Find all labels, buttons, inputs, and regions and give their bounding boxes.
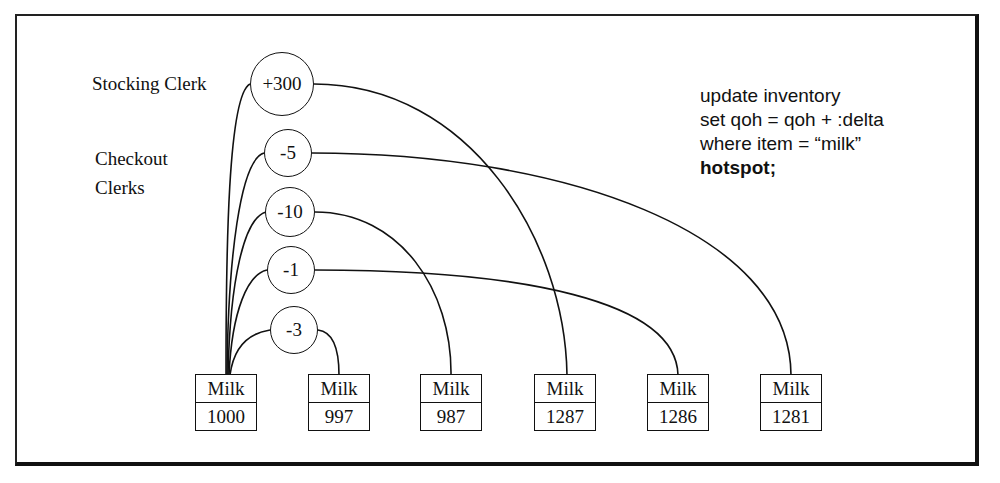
connector-minus3-to-997 [318,330,339,375]
connector-1000-to-minus3 [230,330,270,375]
stocking-clerk-label: Stocking Clerk [92,70,207,98]
checkout-clerks-label-line2: Clerks [95,174,145,202]
connector-minus10-to-987 [315,212,451,375]
sql-line-where: where item = “milk” [700,132,884,156]
record-qoh: 1287 [535,403,595,430]
delta-node-minus5: -5 [264,129,312,177]
record-item: Milk [535,375,595,403]
delta-node-minus1: -1 [267,246,315,294]
record-item: Milk [421,375,481,403]
record-qoh: 1000 [196,403,256,430]
record-box-987: Milk 987 [420,374,482,431]
record-box-1286: Milk 1286 [647,374,709,431]
connector-minus5-to-1281 [312,153,791,375]
record-item: Milk [648,375,708,403]
record-box-1281: Milk 1281 [760,374,822,431]
record-qoh: 1286 [648,403,708,430]
connector-minus1-to-1286 [315,270,678,375]
record-item: Milk [761,375,821,403]
record-item: Milk [309,375,369,403]
delta-node-plus300: +300 [250,52,314,116]
delta-node-minus10: -10 [265,187,315,237]
record-box-1287: Milk 1287 [534,374,596,431]
sql-line-hotspot: hotspot; [700,156,884,180]
record-qoh: 987 [421,403,481,430]
record-box-1000: Milk 1000 [195,374,257,431]
connector-1000-to-minus10 [228,212,266,375]
delta-node-minus3: -3 [270,306,318,354]
record-item: Milk [196,375,256,403]
record-qoh: 997 [309,403,369,430]
sql-statement: update inventory set qoh = qoh + :delta … [700,84,884,180]
checkout-clerks-label-line1: Checkout [95,145,168,173]
record-box-997: Milk 997 [308,374,370,431]
connector-plus300-to-1287 [314,84,567,375]
sql-line-update: update inventory [700,84,884,108]
record-qoh: 1281 [761,403,821,430]
sql-line-set: set qoh = qoh + :delta [700,108,884,132]
